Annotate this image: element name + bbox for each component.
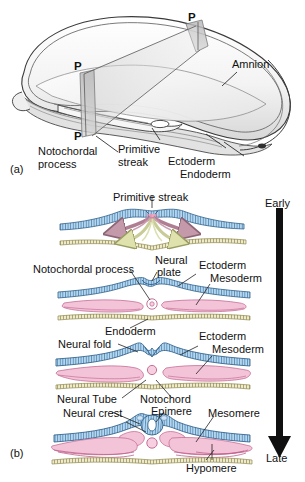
label-neural-fold: Neural fold: [58, 338, 111, 350]
section-4-neural-tube: [51, 412, 252, 464]
figure-root: P P P Amnion Notochordal process Primiti…: [0, 0, 305, 482]
label-endoderm-b2: Endoderm: [105, 325, 156, 337]
label-late: Late: [266, 452, 287, 464]
label-neural-tube: Neural Tube: [57, 393, 117, 405]
label-ectoderm-b3: Ectoderm: [199, 330, 246, 342]
panel-b-id: (b): [10, 447, 23, 459]
label-hypomere: Hypomere: [186, 462, 237, 474]
label-notochord: Notochord: [140, 393, 191, 405]
label-mesoderm-b3: Mesoderm: [212, 343, 264, 355]
label-primitive-streak-b: Primitive streak: [113, 191, 188, 203]
label-neural-plate-line1: Neural: [155, 254, 187, 266]
label-early: Early: [265, 197, 290, 209]
time-arrow-early-late: [268, 208, 291, 458]
label-neural-crest: Neural crest: [63, 407, 122, 419]
label-neural-plate-line2: plate: [157, 266, 181, 278]
label-notochordal-process-b: Notochordal process: [33, 263, 134, 275]
label-epimere: Epimere: [151, 405, 192, 417]
section-1-primitive-streak: [60, 196, 246, 250]
label-mesomere: Mesomere: [208, 407, 260, 419]
label-ectoderm-b2: Ectoderm: [199, 259, 246, 271]
label-mesoderm-b2: Mesoderm: [210, 272, 262, 284]
